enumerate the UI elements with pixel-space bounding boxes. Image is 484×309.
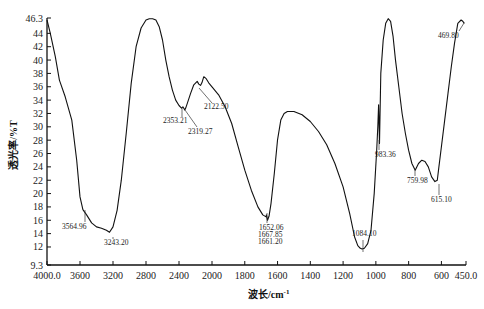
peak-label: 615.10 bbox=[431, 195, 452, 204]
y-tick-label: 40 bbox=[33, 55, 43, 66]
peak-label: 1661.20 bbox=[258, 237, 283, 246]
y-tick-label: 42 bbox=[33, 41, 43, 52]
spectrum-line bbox=[47, 19, 464, 249]
y-tick-label: 34 bbox=[33, 95, 43, 106]
y-tick-label: 12 bbox=[33, 241, 43, 252]
y-tick-label: 14 bbox=[33, 228, 43, 239]
x-axis-title-main: 波长/cm bbox=[248, 288, 284, 300]
x-tick-label: 2000 bbox=[202, 270, 222, 281]
peak-label: 3243.20 bbox=[104, 238, 129, 247]
x-axis-title: 波长/cm-1 bbox=[248, 288, 290, 300]
peak-label: 2319.27 bbox=[188, 127, 213, 136]
peak-label: 759.98 bbox=[407, 176, 428, 185]
x-axis-ticks: 4000.03600320028002400200018001600140012… bbox=[33, 261, 477, 281]
x-axis-title-sup: -1 bbox=[284, 288, 290, 296]
y-tick-label: 46.3 bbox=[26, 13, 44, 24]
x-tick-label: 4000.0 bbox=[33, 270, 61, 281]
y-tick-label: 9.3 bbox=[31, 260, 44, 271]
x-tick-label: 600 bbox=[434, 270, 449, 281]
x-tick-label: 3200 bbox=[103, 270, 123, 281]
x-tick-label: 3600 bbox=[70, 270, 90, 281]
y-tick-label: 28 bbox=[33, 135, 43, 146]
x-tick-label: 1200 bbox=[333, 270, 353, 281]
y-axis-title: 透光率/%T bbox=[7, 120, 19, 170]
peak-label: 1084.10 bbox=[352, 229, 377, 238]
y-tick-label: 20 bbox=[33, 188, 43, 199]
peak-label: 983.36 bbox=[375, 150, 396, 159]
y-tick-label: 26 bbox=[33, 148, 43, 159]
y-tick-label: 30 bbox=[33, 121, 43, 132]
x-tick-label: 2400 bbox=[169, 270, 189, 281]
x-tick-label: 1600 bbox=[268, 270, 288, 281]
peak-label: 3564.96 bbox=[62, 222, 87, 231]
y-tick-label: 44 bbox=[33, 28, 43, 39]
peak-leader-line bbox=[459, 23, 464, 31]
peak-label: 2353.21 bbox=[163, 116, 188, 125]
x-tick-label: 2800 bbox=[136, 270, 156, 281]
y-tick-label: 32 bbox=[33, 108, 43, 119]
ftir-chart: 9.3121416182022242628303234363840424446.… bbox=[0, 0, 484, 309]
y-tick-label: 36 bbox=[33, 81, 43, 92]
y-tick-label: 16 bbox=[33, 215, 43, 226]
y-tick-label: 22 bbox=[33, 175, 43, 186]
x-tick-label: 800 bbox=[401, 270, 416, 281]
x-tick-label: 1400 bbox=[300, 270, 320, 281]
peak-label: 469.80 bbox=[438, 31, 459, 40]
x-tick-label: 450.0 bbox=[455, 270, 478, 281]
y-tick-label: 38 bbox=[33, 68, 43, 79]
peak-leader-line bbox=[199, 88, 212, 103]
y-tick-label: 24 bbox=[33, 161, 43, 172]
y-tick-label: 18 bbox=[33, 201, 43, 212]
x-tick-label: 1800 bbox=[235, 270, 255, 281]
peak-annotations: 3564.963243.202353.212319.272122.501652.… bbox=[62, 23, 464, 252]
peak-label: 2122.50 bbox=[204, 102, 229, 111]
x-tick-label: 1000 bbox=[366, 270, 386, 281]
